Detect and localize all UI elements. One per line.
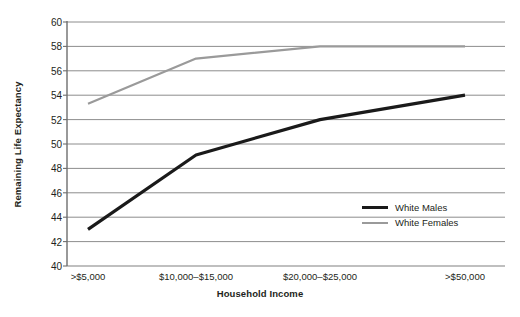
y-tick-label: 48 — [28, 163, 62, 174]
y-tick-label: 50 — [28, 139, 62, 150]
y-tick-label: 58 — [28, 41, 62, 52]
legend-label-white-males: White Males — [395, 203, 447, 213]
x-tick-label: >$5,000 — [71, 271, 106, 282]
legend-label-white-females: White Females — [395, 218, 458, 228]
plot-area — [0, 0, 520, 317]
y-tick-label: 54 — [28, 90, 62, 101]
y-tick-label: 60 — [28, 17, 62, 28]
legend-swatch-white-males — [362, 206, 388, 209]
x-tick-label: >$50,000 — [445, 271, 485, 282]
y-axis-title-wrap: Remaining Life Expectancy — [4, 22, 30, 266]
x-tick-label: $20,000–$25,000 — [283, 271, 357, 282]
y-tick-label: 40 — [28, 261, 62, 272]
chart-legend: White Males White Females — [362, 200, 458, 230]
x-axis-title: Household Income — [0, 288, 520, 299]
chart-figure: Remaining Life Expectancy 60585654525048… — [0, 0, 520, 317]
x-tick-label: $10,000–$15,000 — [159, 271, 233, 282]
y-axis-title: Remaining Life Expectancy — [12, 81, 23, 207]
y-tick-label: 44 — [28, 212, 62, 223]
y-tick-label: 42 — [28, 236, 62, 247]
legend-swatch-white-females — [362, 222, 388, 224]
y-tick-label: 52 — [28, 114, 62, 125]
legend-item-white-males: White Males — [362, 200, 458, 215]
y-tick-label: 56 — [28, 65, 62, 76]
y-tick-label: 46 — [28, 187, 62, 198]
legend-item-white-females: White Females — [362, 215, 458, 230]
